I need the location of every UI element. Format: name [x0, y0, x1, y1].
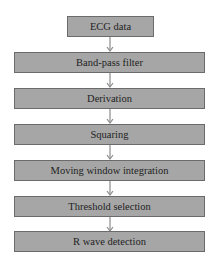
- step-band-pass-filter: Band-pass filter: [14, 52, 205, 73]
- arrow-down-icon: [106, 109, 114, 124]
- arrow-down-icon: [106, 145, 114, 160]
- step-label: Moving window integration: [51, 165, 169, 176]
- step-label: Squaring: [91, 129, 129, 140]
- arrow-down-icon: [106, 37, 114, 52]
- step-label: Band-pass filter: [76, 57, 143, 68]
- step-squaring: Squaring: [14, 124, 205, 145]
- step-r-wave-detection: R wave detection: [14, 231, 205, 252]
- step-label: Derivation: [87, 93, 132, 104]
- step-label: R wave detection: [73, 236, 146, 247]
- arrow-down-icon: [106, 217, 114, 232]
- step-threshold-selection: Threshold selection: [14, 196, 205, 217]
- arrow-down-icon: [106, 73, 114, 88]
- step-derivation: Derivation: [14, 88, 205, 109]
- step-moving-window-integration: Moving window integration: [14, 160, 205, 181]
- arrow-down-icon: [106, 181, 114, 196]
- step-ecg-data: ECG data: [67, 16, 154, 37]
- step-label: ECG data: [90, 21, 131, 32]
- step-label: Threshold selection: [68, 201, 151, 212]
